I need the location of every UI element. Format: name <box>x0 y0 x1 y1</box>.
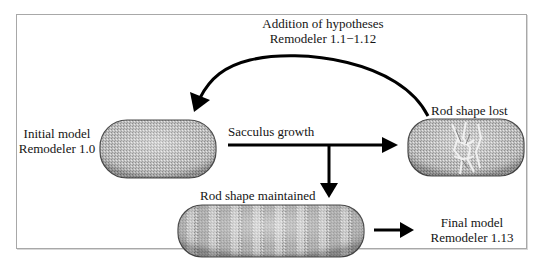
final-line1: Final model <box>420 215 524 230</box>
final-model-arrowhead <box>400 222 414 238</box>
rod-shape-lost-cell <box>408 119 524 176</box>
addition-of-hypotheses-label: Addition of hypotheses Remodeler 1.1−1.1… <box>248 16 398 46</box>
branch-down-arrowhead <box>320 183 338 198</box>
addition-line1: Addition of hypotheses <box>248 16 398 31</box>
final-model-label: Final model Remodeler 1.13 <box>420 215 524 245</box>
initial-model-label: Initial model Remodeler 1.0 <box>16 126 98 156</box>
rod-shape-maintained-cell <box>178 205 364 257</box>
sacculus-growth-label: Sacculus growth <box>228 124 314 139</box>
initial-model-cell <box>100 120 216 178</box>
addition-line2: Remodeler 1.1−1.12 <box>248 31 398 46</box>
sacculus-growth-arrowhead <box>382 137 398 153</box>
initial-line2: Remodeler 1.0 <box>16 141 98 156</box>
initial-line1: Initial model <box>16 126 98 141</box>
final-line2: Remodeler 1.13 <box>420 230 524 245</box>
rod-shape-maintained-label: Rod shape maintained <box>200 188 316 203</box>
feedback-curved-arrow <box>200 56 428 116</box>
rod-shape-lost-label: Rod shape lost <box>431 103 508 118</box>
